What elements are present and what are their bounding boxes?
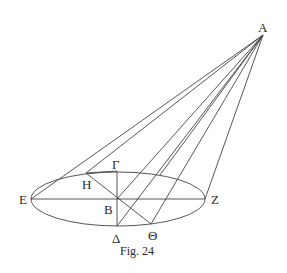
- label-A: A: [258, 21, 267, 34]
- line-HTheta: [86, 173, 151, 224]
- line-AE: [31, 35, 263, 199]
- line-AB: [117, 35, 263, 199]
- line-AH: [86, 35, 263, 173]
- label-B: B: [104, 203, 113, 216]
- label-E: E: [19, 193, 27, 206]
- cone-diagram: [0, 0, 287, 273]
- label-Z: Z: [211, 193, 219, 206]
- label-Theta: Θ: [148, 229, 157, 242]
- line-A-ellipse-top: [160, 35, 263, 175]
- line-AZ: [205, 35, 263, 199]
- label-Gamma: Γ: [112, 158, 120, 171]
- label-H: H: [82, 178, 91, 191]
- line-ADelta: [117, 35, 263, 226]
- line-ATheta: [151, 35, 263, 224]
- figure-caption: Fig. 24: [120, 244, 154, 259]
